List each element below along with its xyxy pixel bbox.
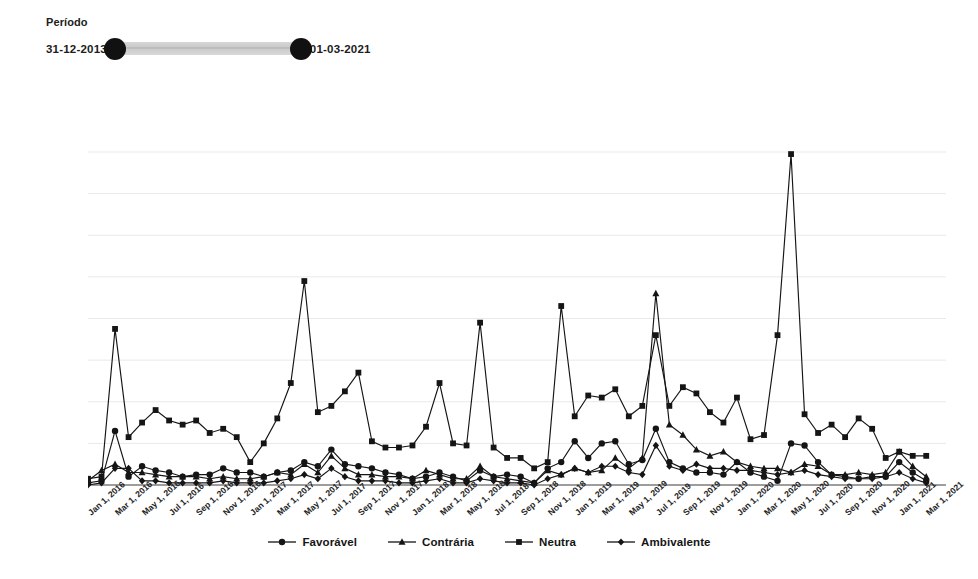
chart-page: Período 31-12-2013 01-03-2021 0204060801… (0, 0, 978, 579)
range-start-label: 31-12-2013 (46, 43, 107, 55)
series-neutra (88, 151, 929, 481)
range-end-label: 01-03-2021 (310, 43, 371, 55)
square-marker-icon (504, 536, 534, 548)
legend-label: Contrária (422, 536, 474, 548)
legend-label: Neutra (539, 536, 576, 548)
legend-item-contrária[interactable]: Contrária (387, 536, 474, 548)
line-chart: 020406080100120140160 Jan 1, 2016Mar 1, … (0, 118, 978, 538)
legend-item-favorável[interactable]: Favorável (267, 536, 357, 548)
legend-label: Favorável (302, 536, 357, 548)
slider-handle-start[interactable] (104, 38, 126, 60)
period-filter-title: Período (46, 16, 371, 28)
circle-marker-icon (267, 536, 297, 548)
diamond-marker-icon (606, 536, 636, 548)
slider-handle-end[interactable] (290, 38, 312, 60)
slider-track[interactable] (113, 42, 303, 55)
legend-item-ambivalente[interactable]: Ambivalente (606, 536, 710, 548)
period-filter: Período 31-12-2013 01-03-2021 (46, 16, 371, 55)
plot-svg: 020406080100120140160 (88, 142, 946, 497)
plot-area: 020406080100120140160 (88, 142, 946, 497)
legend-label: Ambivalente (641, 536, 710, 548)
legend-item-neutra[interactable]: Neutra (504, 536, 576, 548)
triangle-marker-icon (387, 536, 417, 548)
date-range-slider[interactable]: 31-12-2013 01-03-2021 (46, 42, 371, 55)
chart-legend: FavorávelContráriaNeutraAmbivalente (0, 536, 978, 548)
